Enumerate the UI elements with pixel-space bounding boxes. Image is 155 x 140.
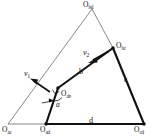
point-label-Oad: Oad (40, 126, 50, 134)
linkage-diagram: Oac Oad Ocd Obc Oab Obd b c d v1 v2 a (0, 0, 155, 140)
joint-Obc (111, 46, 114, 49)
point-label-Oab: Oab (61, 90, 71, 98)
link-label-c: c (124, 76, 128, 84)
vector-label-v1: v1 (24, 70, 30, 78)
joint-Oab (56, 86, 59, 89)
point-label-Oac: Oac (2, 126, 12, 134)
point-label-Obc: Obc (116, 42, 126, 50)
vector-label-v2: v2 (83, 49, 89, 57)
construction-lines (8, 9, 144, 124)
angle-label-alpha: a (56, 101, 60, 109)
point-label-Obd: Obd (83, 1, 93, 9)
velocity-vector-v2 (88, 51, 109, 63)
link-c-Obc-to-Ocd (113, 48, 144, 124)
link-label-b: b (79, 68, 83, 76)
v2-arrowhead (88, 58, 98, 63)
link-label-d: d (89, 117, 93, 125)
line-Obd-to-Obc (92, 9, 113, 48)
point-label-Ocd: Ocd (134, 126, 144, 134)
